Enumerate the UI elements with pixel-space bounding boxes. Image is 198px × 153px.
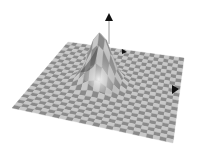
z-axis-arrow-icon (105, 13, 113, 21)
gaussian-surface-render (0, 0, 198, 153)
